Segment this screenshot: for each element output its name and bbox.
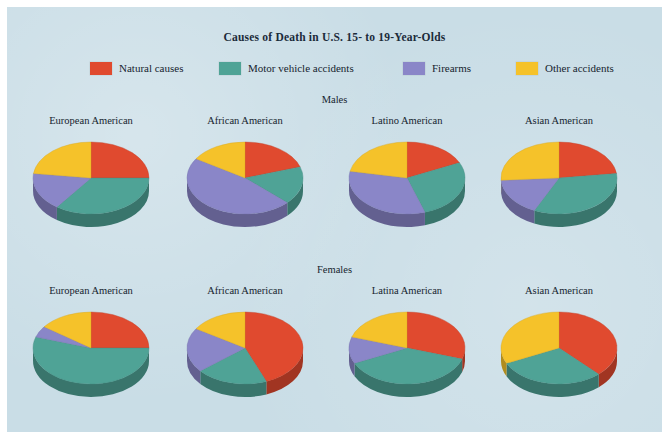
legend-swatch-motor-vehicle-accidents	[219, 62, 241, 75]
pie-caption: Asian American	[484, 115, 634, 126]
legend-swatch-other-accidents	[516, 62, 538, 75]
legend-swatch-natural-causes	[90, 62, 112, 75]
pie-chart	[183, 132, 307, 236]
pie-caption: African American	[170, 285, 320, 296]
pie-cell-males-european-american: European American	[16, 115, 166, 250]
legend-item-natural-causes: Natural causes	[90, 60, 183, 76]
chart-title: Causes of Death in U.S. 15- to 19-Year-O…	[7, 31, 662, 43]
pie-chart	[345, 302, 469, 406]
pie-chart	[29, 302, 153, 406]
legend-item-other-accidents: Other accidents	[516, 60, 614, 76]
legend-label-natural-causes: Natural causes	[119, 62, 183, 74]
chart-figure: Causes of Death in U.S. 15- to 19-Year-O…	[7, 7, 662, 432]
legend-label-motor-vehicle-accidents: Motor vehicle accidents	[248, 62, 354, 74]
legend-label-firearms: Firearms	[432, 62, 471, 74]
pie-caption: African American	[170, 115, 320, 126]
chart-legend: Natural causes Motor vehicle accidents F…	[7, 60, 662, 78]
pie-cell-males-asian-american: Asian American	[484, 115, 634, 250]
pie-caption: Asian American	[484, 285, 634, 296]
pie-cell-females-asian-american: Asian American	[484, 285, 634, 420]
group-label-females: Females	[7, 264, 662, 275]
pie-chart	[29, 132, 153, 236]
legend-item-motor-vehicle-accidents: Motor vehicle accidents	[219, 60, 354, 76]
pie-cell-females-european-american: European American	[16, 285, 166, 420]
pie-caption: European American	[16, 115, 166, 126]
pie-caption: European American	[16, 285, 166, 296]
pie-cell-females-african-american: African American	[170, 285, 320, 420]
pie-caption: Latina American	[332, 285, 482, 296]
legend-swatch-firearms	[403, 62, 425, 75]
legend-label-other-accidents: Other accidents	[545, 62, 614, 74]
pie-chart	[345, 132, 469, 236]
pie-chart	[497, 132, 621, 236]
pie-chart	[183, 302, 307, 406]
pie-cell-females-latina-american: Latina American	[332, 285, 482, 420]
pie-cell-males-latino-american: Latino American	[332, 115, 482, 250]
pie-caption: Latino American	[332, 115, 482, 126]
legend-item-firearms: Firearms	[403, 60, 471, 76]
group-label-males: Males	[7, 94, 662, 105]
pie-chart	[497, 302, 621, 406]
pie-cell-males-african-american: African American	[170, 115, 320, 250]
